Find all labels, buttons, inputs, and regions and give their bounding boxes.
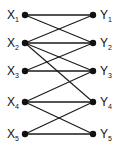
node-label-x2: X2	[7, 36, 19, 51]
node-x1	[22, 12, 28, 18]
node-label-x1: X1	[7, 8, 19, 23]
node-label-y5: Y5	[100, 127, 112, 142]
node-label-x5: X5	[7, 127, 19, 142]
node-label-y3: Y3	[100, 64, 112, 79]
node-x3	[22, 68, 28, 74]
edge-x2-y4	[25, 43, 93, 102]
edge-x4-y3	[25, 71, 93, 102]
node-y1	[90, 12, 96, 18]
edges-layer	[25, 15, 93, 134]
node-y5	[90, 131, 96, 137]
node-label-y1: Y1	[100, 8, 112, 23]
node-y4	[90, 99, 96, 105]
bipartite-graph: X1X2X3X4X5Y1Y2Y3Y4Y5	[0, 0, 119, 154]
node-x5	[22, 131, 28, 137]
node-x2	[22, 40, 28, 46]
labels-layer: X1X2X3X4X5Y1Y2Y3Y4Y5	[7, 8, 112, 142]
node-label-x4: X4	[7, 95, 19, 110]
node-label-y4: Y4	[100, 95, 112, 110]
node-label-x3: X3	[7, 64, 19, 79]
node-label-y2: Y2	[100, 36, 112, 51]
node-y2	[90, 40, 96, 46]
node-x4	[22, 99, 28, 105]
node-y3	[90, 68, 96, 74]
